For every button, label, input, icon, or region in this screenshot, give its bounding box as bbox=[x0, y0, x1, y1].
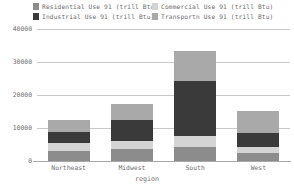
bar-segment-midwest-commercial[interactable] bbox=[111, 141, 153, 150]
legend-label-commercial: Commercial Use 91 (trill Btu) bbox=[161, 2, 273, 11]
bar-segment-midwest-transportn[interactable] bbox=[111, 104, 153, 120]
bar-segment-northeast-commercial[interactable] bbox=[48, 143, 90, 151]
bar-segment-midwest-industrial[interactable] bbox=[111, 120, 153, 141]
legend-item-industrial: Industrial Use 91 (trill Btu) bbox=[33, 12, 152, 21]
bar-segment-west-transportn[interactable] bbox=[237, 111, 279, 132]
x-tick-label-west: West bbox=[218, 164, 294, 172]
bar-segment-west-residential[interactable] bbox=[237, 153, 279, 161]
legend-item-transportn: Transportn Use 91 (trill Btu) bbox=[152, 12, 285, 21]
gridline-40000 bbox=[37, 29, 290, 30]
bar-west[interactable] bbox=[237, 111, 279, 161]
legend-swatch-commercial bbox=[152, 3, 158, 10]
bar-northeast[interactable] bbox=[48, 120, 90, 161]
y-axis: 010000200003000040000 bbox=[0, 29, 32, 161]
gridline-30000 bbox=[37, 62, 290, 63]
bar-segment-northeast-industrial[interactable] bbox=[48, 132, 90, 143]
bar-segment-northeast-residential[interactable] bbox=[48, 151, 90, 161]
bar-segment-south-commercial[interactable] bbox=[174, 136, 216, 147]
x-axis-line bbox=[33, 161, 291, 162]
y-tick-label-40000: 40000 bbox=[13, 26, 32, 33]
x-axis-title: region bbox=[0, 175, 294, 183]
legend-label-industrial: Industrial Use 91 (trill Btu) bbox=[42, 12, 154, 21]
legend-label-transportn: Transportn Use 91 (trill Btu) bbox=[161, 12, 273, 21]
bar-chart: Residential Use 91 (trill Btu) Commercia… bbox=[0, 0, 294, 189]
plot-area bbox=[37, 29, 290, 161]
legend-swatch-transportn bbox=[152, 13, 158, 20]
y-tick-label-30000: 30000 bbox=[13, 59, 32, 66]
legend-swatch-industrial bbox=[33, 13, 39, 20]
gridline-20000 bbox=[37, 95, 290, 96]
chart-legend: Residential Use 91 (trill Btu) Commercia… bbox=[33, 2, 285, 21]
bar-segment-south-residential[interactable] bbox=[174, 147, 216, 161]
bar-segment-south-industrial[interactable] bbox=[174, 81, 216, 135]
bar-segment-south-transportn[interactable] bbox=[174, 51, 216, 82]
bar-segment-northeast-transportn[interactable] bbox=[48, 120, 90, 132]
bar-south[interactable] bbox=[174, 51, 216, 161]
legend-label-residential: Residential Use 91 (trill Btu) bbox=[42, 2, 158, 11]
legend-swatch-residential bbox=[33, 3, 39, 10]
bar-segment-west-industrial[interactable] bbox=[237, 133, 279, 147]
bar-segment-west-commercial[interactable] bbox=[237, 147, 279, 154]
legend-item-residential: Residential Use 91 (trill Btu) bbox=[33, 2, 152, 11]
bar-segment-midwest-residential[interactable] bbox=[111, 149, 153, 161]
legend-item-commercial: Commercial Use 91 (trill Btu) bbox=[152, 2, 285, 11]
y-tick-label-10000: 10000 bbox=[13, 125, 32, 132]
bar-midwest[interactable] bbox=[111, 104, 153, 161]
y-tick-label-20000: 20000 bbox=[13, 92, 32, 99]
